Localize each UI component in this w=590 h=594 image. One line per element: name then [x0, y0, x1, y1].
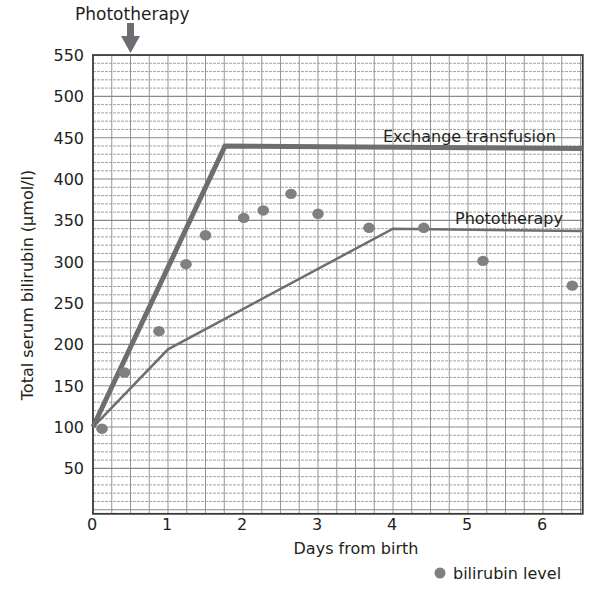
y-tick-label: 100 — [53, 418, 84, 437]
x-axis-label: Days from birth — [294, 539, 419, 558]
plot-grid — [93, 55, 583, 514]
x-axis-ticks: 0123456 — [87, 515, 547, 534]
bilirubin-data-point — [119, 367, 131, 377]
bilirubin-data-point — [363, 223, 375, 233]
bilirubin-data-point — [566, 280, 578, 290]
y-axis-label: Total serum bilirubin (µmol/l) — [18, 170, 37, 401]
y-tick-label: 200 — [53, 335, 84, 354]
y-tick-label: 50 — [64, 459, 84, 478]
bilirubin-data-point — [96, 423, 108, 433]
y-tick-label: 450 — [53, 129, 84, 148]
bilirubin-data-point — [418, 223, 430, 233]
y-axis-ticks: 50100150200250300350400450500550 — [53, 46, 84, 478]
y-tick-label: 400 — [53, 170, 84, 189]
y-tick-label: 350 — [53, 211, 84, 230]
x-tick-label: 6 — [537, 515, 547, 534]
y-tick-label: 550 — [53, 46, 84, 65]
x-tick-label: 3 — [312, 515, 322, 534]
x-tick-label: 5 — [462, 515, 472, 534]
bilirubin-data-point — [312, 209, 324, 219]
bilirubin-data-point — [200, 230, 212, 240]
bilirubin-data-point — [257, 205, 269, 215]
legend-dot-icon — [435, 568, 446, 579]
bilirubin-data-point — [477, 256, 489, 266]
bilirubin-chart: 50100150200250300350400450500550 0123456… — [0, 0, 590, 594]
phototherapy-arrow-label: Phototherapy — [75, 4, 190, 24]
x-tick-label: 0 — [87, 515, 97, 534]
exchange-transfusion-label: Exchange transfusion — [383, 127, 556, 146]
plot-frame — [93, 55, 583, 514]
y-tick-label: 250 — [53, 294, 84, 313]
x-tick-label: 2 — [237, 515, 247, 534]
bilirubin-data-point — [285, 189, 297, 199]
phototherapy-line-label: Phototherapy — [455, 209, 563, 228]
bilirubin-data-point — [153, 326, 165, 336]
bilirubin-data-point — [180, 259, 192, 269]
bilirubin-data-point — [238, 213, 250, 223]
y-tick-label: 150 — [53, 377, 84, 396]
y-tick-label: 300 — [53, 253, 84, 272]
legend-label: bilirubin level — [453, 564, 561, 583]
x-tick-label: 4 — [387, 515, 397, 534]
down-arrow-icon — [121, 23, 140, 53]
plot-border — [93, 55, 583, 514]
legend: bilirubin level — [435, 564, 562, 583]
x-tick-label: 1 — [162, 515, 172, 534]
y-tick-label: 500 — [53, 87, 84, 106]
